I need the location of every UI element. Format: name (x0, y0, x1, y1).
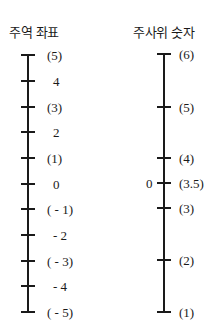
left-tick (21, 234, 35, 236)
left-tick-label: (5) (47, 49, 62, 62)
left-tick (21, 183, 35, 185)
right-tick (157, 53, 171, 55)
right-tick-label: (4) (179, 152, 194, 165)
left-tick-label: ( - 5) (47, 306, 73, 319)
right-axis-title: 주사위 숫자 (133, 22, 194, 41)
right-tick-label: (5) (179, 101, 194, 114)
right-axis-zero-label: 0 (146, 177, 153, 190)
left-tick-label: 0 (53, 178, 60, 191)
left-tick-label: ( - 3) (47, 255, 73, 268)
right-tick-label: (1) (179, 306, 194, 319)
left-tick (21, 208, 35, 210)
left-tick (21, 285, 35, 287)
left-tick (21, 54, 35, 56)
right-tick-label: (3) (179, 202, 194, 215)
right-tick (157, 259, 171, 261)
left-tick-label: 2 (53, 126, 60, 139)
right-tick-label: (2) (179, 254, 194, 267)
left-tick-label: (1) (47, 152, 62, 165)
right-tick-label: (6) (179, 48, 194, 61)
left-tick (21, 106, 35, 108)
left-tick (21, 131, 35, 133)
left-tick-label: 4 (53, 75, 60, 88)
right-tick (157, 106, 171, 108)
right-tick (157, 157, 171, 159)
right-tick (157, 311, 171, 313)
left-tick (21, 260, 35, 262)
left-tick (21, 157, 35, 159)
left-tick (21, 311, 35, 313)
left-tick-label: - 4 (53, 280, 67, 293)
right-tick (157, 182, 171, 184)
left-tick-label: ( - 1) (47, 203, 73, 216)
right-tick-label: (3.5) (179, 177, 204, 190)
left-tick-label: (3) (47, 101, 62, 114)
right-tick (157, 207, 171, 209)
left-tick-label: - 2 (53, 229, 67, 242)
left-tick (21, 80, 35, 82)
left-axis-title: 주역 좌표 (9, 22, 59, 41)
